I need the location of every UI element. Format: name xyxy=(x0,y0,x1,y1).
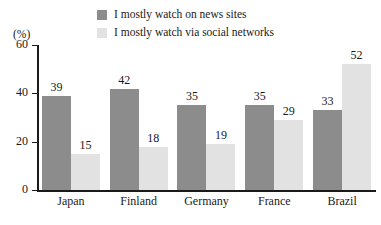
bar-slot: 33 xyxy=(313,45,342,190)
bar-slot: 18 xyxy=(139,45,168,190)
x-axis-category-label: Finland xyxy=(105,194,173,209)
bar-value-label: 35 xyxy=(254,89,266,103)
x-axis-line xyxy=(37,190,376,192)
bar-slot: 15 xyxy=(71,45,100,190)
bar[interactable] xyxy=(245,105,274,190)
bar-value-label: 39 xyxy=(50,80,62,94)
bar[interactable] xyxy=(42,96,71,190)
y-axis-tick-label: 0 xyxy=(22,182,28,197)
legend-swatch-social-networks xyxy=(97,28,107,38)
bar-value-label: 19 xyxy=(215,128,227,142)
bar-slot: 35 xyxy=(245,45,274,190)
bar-chart: I mostly watch on news sites I mostly wa… xyxy=(0,0,381,225)
bar[interactable] xyxy=(71,154,100,190)
bar-value-label: 35 xyxy=(186,89,198,103)
bar[interactable] xyxy=(177,105,206,190)
y-axis-tick-label: 60 xyxy=(16,37,28,52)
bar-value-label: 18 xyxy=(147,131,159,145)
y-axis-tick: 0 xyxy=(32,190,37,191)
bar-value-label: 33 xyxy=(322,94,334,108)
bar[interactable] xyxy=(342,64,371,190)
chart-legend: I mostly watch on news sites I mostly wa… xyxy=(97,8,274,39)
bar-value-label: 42 xyxy=(118,73,130,87)
x-axis-category-labels: JapanFinlandGermanyFranceBrazil xyxy=(37,194,376,209)
x-axis-category-label: Japan xyxy=(37,194,105,209)
x-axis-category-label: Brazil xyxy=(308,194,376,209)
x-axis-category-label: France xyxy=(240,194,308,209)
bar-slot: 19 xyxy=(206,45,235,190)
y-axis-tick-label: 20 xyxy=(16,134,28,149)
bar-slot: 29 xyxy=(274,45,303,190)
legend-label-news-sites: I mostly watch on news sites xyxy=(114,8,247,21)
legend-swatch-news-sites xyxy=(97,10,107,20)
bar[interactable] xyxy=(206,144,235,190)
bar-value-label: 15 xyxy=(79,138,91,152)
bar-slot: 39 xyxy=(42,45,71,190)
x-axis-category-label: Germany xyxy=(173,194,241,209)
legend-item-social-networks: I mostly watch via social networks xyxy=(97,26,274,39)
bar[interactable] xyxy=(110,89,139,191)
legend-label-social-networks: I mostly watch via social networks xyxy=(114,26,274,39)
bar-slot: 35 xyxy=(177,45,206,190)
bar-group: 4218 xyxy=(105,45,173,190)
bar-group: 3519 xyxy=(173,45,241,190)
bar[interactable] xyxy=(274,120,303,190)
bar-group: 3529 xyxy=(240,45,308,190)
bar[interactable] xyxy=(313,110,342,190)
bar-slot: 52 xyxy=(342,45,371,190)
bar-slot: 42 xyxy=(110,45,139,190)
bar-value-label: 52 xyxy=(351,48,363,62)
legend-item-news-sites: I mostly watch on news sites xyxy=(97,8,274,21)
bar[interactable] xyxy=(139,147,168,191)
bar-groups: 39154218351935293352 xyxy=(37,45,376,190)
bar-value-label: 29 xyxy=(283,104,295,118)
plot-area: 0204060 39154218351935293352 xyxy=(37,45,376,190)
bar-group: 3915 xyxy=(37,45,105,190)
bar-group: 3352 xyxy=(308,45,376,190)
y-axis-tick-label: 40 xyxy=(16,85,28,100)
